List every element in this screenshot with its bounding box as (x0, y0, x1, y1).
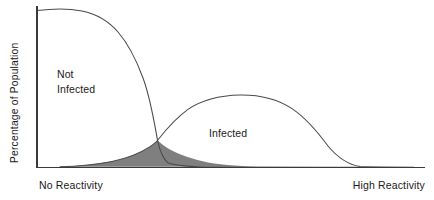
x-axis-label-left: No Reactivity (39, 179, 103, 191)
chart-plot-area: Percentage of Population Not Infected In… (0, 0, 434, 200)
overlap-shaded-region (60, 140, 266, 167)
y-axis-label: Percentage of Population (9, 42, 20, 163)
x-axis-label-right: High Reactivity (353, 179, 426, 191)
not-infected-annotation-line2: Infected (57, 83, 95, 95)
infected-annotation: Infected (209, 127, 247, 139)
reactivity-distribution-chart: Percentage of Population Not Infected In… (0, 0, 434, 200)
not-infected-annotation-line1: Not (57, 68, 74, 80)
